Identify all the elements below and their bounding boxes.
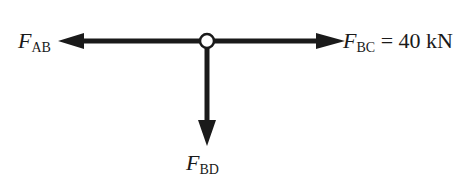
arrowhead-left-icon xyxy=(58,33,84,49)
force-symbol: F xyxy=(343,28,356,53)
force-symbol: F xyxy=(18,28,31,53)
arrowhead-down-icon xyxy=(198,120,216,146)
force-label-ab: FAB xyxy=(18,30,51,55)
force-label-bc: FBC = 40 kN xyxy=(343,30,453,55)
arrowhead-right-icon xyxy=(316,33,345,49)
force-diagram xyxy=(0,0,460,174)
force-subscript: BD xyxy=(199,162,218,174)
force-label-bd: FBD xyxy=(186,152,219,174)
force-value: = 40 kN xyxy=(381,28,453,53)
force-subscript: BC xyxy=(356,40,375,55)
force-symbol: F xyxy=(186,150,199,174)
force-subscript: AB xyxy=(31,40,50,55)
joint-node-icon xyxy=(200,34,214,48)
